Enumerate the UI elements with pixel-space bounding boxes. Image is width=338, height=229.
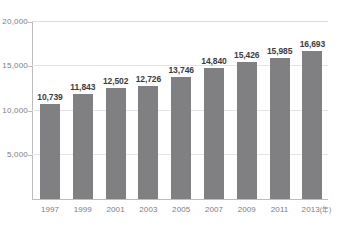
bar[interactable]: [302, 51, 322, 199]
bar-slot: 11,843: [67, 22, 99, 199]
y-axis-tick-label: 5,000: [0, 151, 28, 159]
bar[interactable]: [270, 58, 290, 199]
bar[interactable]: [138, 86, 158, 199]
bar-slot: 12,726: [132, 22, 164, 199]
bar-value-label: 16,693: [290, 40, 334, 49]
y-axis-tick: [28, 22, 32, 23]
y-axis-tick-label: 15,000: [0, 62, 28, 70]
chart-title: [0, 0, 338, 3]
bar-value-label: 12,726: [126, 75, 170, 84]
bar-slot: 14,840: [198, 22, 230, 199]
bar[interactable]: [73, 94, 93, 199]
bar-slot: 13,746: [165, 22, 197, 199]
x-axis-tick-label: 2013(年): [294, 205, 338, 214]
x-axis-line: [32, 199, 328, 200]
y-axis-tick-label: 10,000: [0, 107, 28, 115]
bar-chart: 10,73911,84312,50212,72613,74614,84015,4…: [0, 0, 338, 229]
y-axis-tick: [28, 111, 32, 112]
bar-slot: 16,693: [296, 22, 328, 199]
y-axis-tick-label: 20,000: [0, 18, 28, 26]
bar[interactable]: [237, 62, 257, 199]
bar[interactable]: [204, 68, 224, 199]
bar[interactable]: [40, 104, 60, 199]
bar[interactable]: [171, 77, 191, 199]
bar-slot: 12,502: [100, 22, 132, 199]
bar-slot: 10,739: [34, 22, 66, 199]
y-axis-tick: [28, 66, 32, 67]
bar[interactable]: [106, 88, 126, 199]
bar-value-label: 13,746: [159, 66, 203, 75]
y-axis-tick: [28, 155, 32, 156]
bar-value-label: 10,739: [28, 93, 72, 102]
x-axis-unit-label: (年): [320, 206, 331, 213]
plot-area: 10,73911,84312,50212,72613,74614,84015,4…: [32, 22, 328, 199]
